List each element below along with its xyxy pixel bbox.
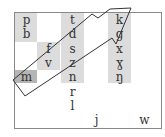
diagonal-arrow-icon: [0, 0, 165, 137]
